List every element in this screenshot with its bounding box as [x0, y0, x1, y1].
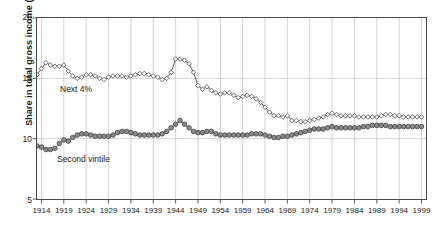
data-point-marker	[146, 72, 151, 77]
data-point-marker	[294, 132, 299, 137]
data-point-marker	[142, 71, 147, 76]
data-point-marker	[272, 135, 277, 140]
data-point-marker	[312, 117, 317, 122]
x-tick-label-1999: 1999	[407, 206, 437, 215]
data-point-marker	[129, 74, 134, 79]
data-point-marker	[129, 130, 134, 135]
data-point-marker	[276, 135, 281, 140]
data-point-marker	[249, 132, 254, 137]
data-point-marker	[316, 127, 321, 132]
data-point-marker	[352, 126, 357, 131]
data-point-marker	[379, 123, 384, 128]
data-point-marker	[392, 124, 397, 129]
data-point-marker	[415, 124, 420, 129]
data-point-marker	[115, 130, 120, 135]
data-point-marker	[231, 133, 236, 138]
data-point-marker	[397, 124, 402, 129]
data-point-marker	[178, 118, 183, 123]
data-point-marker	[75, 76, 80, 81]
data-point-marker	[164, 129, 169, 134]
data-point-marker	[39, 145, 44, 150]
data-point-marker	[227, 91, 232, 96]
y-tick-label-10: 10	[6, 135, 32, 143]
data-point-marker	[200, 130, 205, 135]
data-point-marker	[294, 118, 299, 123]
data-point-marker	[187, 126, 192, 131]
data-point-marker	[178, 57, 183, 62]
series-next-4-percent	[37, 57, 424, 124]
data-point-marker	[160, 77, 165, 82]
data-point-marker	[401, 124, 406, 129]
data-point-marker	[227, 133, 232, 138]
data-point-marker	[124, 129, 129, 134]
data-point-marker	[173, 122, 178, 127]
data-point-marker	[97, 76, 102, 81]
data-point-marker	[48, 147, 53, 152]
data-point-marker	[146, 133, 151, 138]
data-point-marker	[312, 127, 317, 132]
data-point-marker	[111, 133, 116, 138]
data-point-marker	[330, 111, 335, 116]
y-tick-label-15: 15	[6, 74, 32, 82]
data-point-marker	[205, 129, 210, 134]
gridlines	[37, 18, 426, 199]
data-point-marker	[62, 138, 67, 143]
data-point-marker	[370, 123, 375, 128]
data-point-marker	[48, 63, 53, 68]
y-axis-ticks	[32, 17, 37, 200]
data-point-marker	[93, 74, 98, 79]
data-point-marker	[138, 133, 143, 138]
y-tick-label-5: 5	[6, 196, 32, 204]
series-label-next-4-percent: Next 4%	[60, 84, 92, 94]
data-point-marker	[231, 93, 236, 98]
data-point-marker	[303, 119, 308, 124]
data-point-marker	[79, 132, 84, 137]
data-point-marker	[120, 129, 125, 134]
data-point-marker	[133, 72, 138, 77]
series-label-second-vintile: Second vintile	[57, 154, 110, 164]
data-point-marker	[334, 126, 339, 131]
data-point-marker	[133, 132, 138, 137]
data-point-marker	[79, 75, 84, 80]
chart-canvas	[37, 18, 426, 199]
data-point-marker	[75, 133, 80, 138]
data-point-marker	[307, 128, 312, 133]
data-point-marker	[37, 72, 39, 77]
data-point-marker	[343, 126, 348, 131]
data-point-marker	[236, 95, 241, 100]
data-point-marker	[276, 113, 281, 118]
data-point-marker	[299, 130, 304, 135]
data-point-marker	[70, 135, 75, 140]
data-point-marker	[366, 124, 371, 129]
data-point-marker	[214, 91, 219, 96]
data-point-marker	[357, 126, 362, 131]
data-point-marker	[57, 141, 62, 146]
data-point-marker	[325, 112, 330, 117]
series-layer	[37, 57, 424, 152]
data-point-marker	[106, 75, 111, 80]
data-point-marker	[88, 72, 93, 77]
data-point-marker	[84, 132, 89, 137]
data-point-marker	[375, 123, 380, 128]
data-point-marker	[383, 123, 388, 128]
data-point-marker	[155, 75, 160, 80]
data-point-marker	[240, 133, 245, 138]
data-point-marker	[151, 74, 156, 79]
data-point-marker	[214, 132, 219, 137]
data-point-marker	[330, 124, 335, 129]
data-point-marker	[281, 134, 286, 139]
data-point-marker	[281, 115, 286, 120]
data-point-marker	[53, 146, 58, 151]
data-point-marker	[254, 132, 259, 137]
data-point-marker	[93, 134, 98, 139]
data-point-marker	[191, 129, 196, 134]
plot-area	[36, 17, 427, 200]
data-point-marker	[142, 133, 147, 138]
data-point-marker	[88, 133, 93, 138]
data-point-marker	[316, 116, 321, 121]
data-point-marker	[361, 124, 366, 129]
data-point-marker	[240, 94, 245, 99]
data-point-marker	[307, 118, 312, 123]
data-point-marker	[249, 94, 254, 99]
data-point-marker	[57, 64, 62, 69]
